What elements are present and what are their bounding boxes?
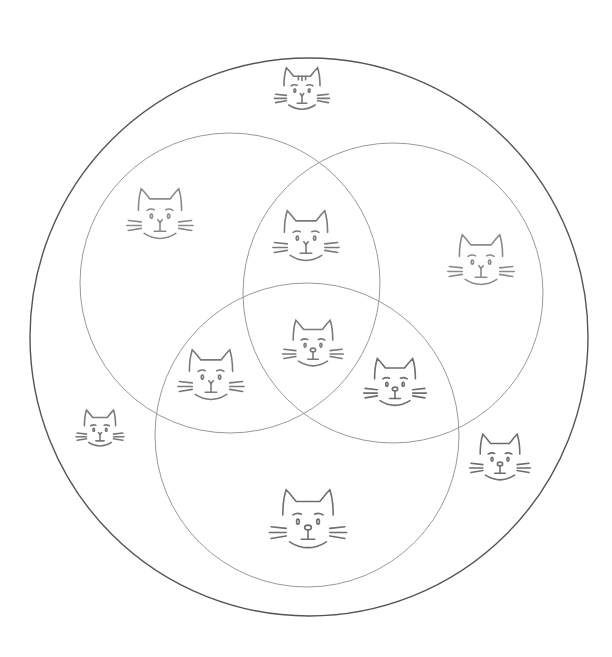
set-circle-bottom <box>155 283 459 587</box>
cat-face-icon <box>364 358 427 405</box>
universe-circle <box>30 58 588 616</box>
cat-face-icon <box>283 320 344 366</box>
cat-face-icon <box>274 68 329 109</box>
cat-face-icon <box>269 490 346 548</box>
items-layer <box>76 68 530 548</box>
cat-face-icon <box>76 410 124 446</box>
set-circle-top-left <box>80 133 380 433</box>
venn-diagram <box>0 0 612 657</box>
cat-face-icon <box>470 434 531 480</box>
venn-diagram-canvas <box>0 0 612 657</box>
cat-face-icon <box>127 189 193 239</box>
cat-face-icon <box>273 211 339 261</box>
cat-face-icon <box>178 350 244 400</box>
cat-face-icon <box>448 235 514 285</box>
